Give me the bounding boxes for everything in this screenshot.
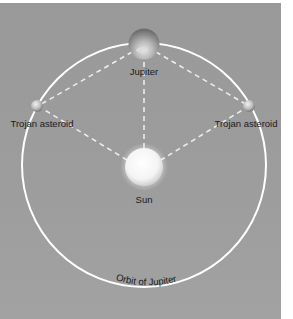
trojan-asteroid-right-icon <box>243 100 255 112</box>
trojan-asteroid-left-label: Trojan asteroid <box>10 118 73 129</box>
dashed-connector-lines <box>38 44 249 160</box>
sun-icon <box>120 143 168 191</box>
trojan-asteroid-right-label: Trojan asteroid <box>214 118 277 129</box>
trojan-asteroids-diagram: Jupiter Trojan asteroid Trojan asteroid … <box>0 0 293 319</box>
jupiter-planet-icon <box>129 29 160 60</box>
trojan-asteroid-left-icon <box>31 100 43 112</box>
sun-label: Sun <box>136 194 153 205</box>
jupiter-label: Jupiter <box>130 66 159 77</box>
